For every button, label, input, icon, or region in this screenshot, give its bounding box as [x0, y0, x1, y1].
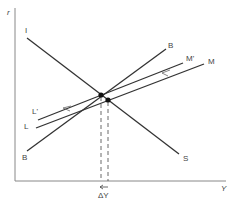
lm-prime-start-label: L' — [32, 107, 38, 116]
x-axis-label: Y — [221, 184, 227, 193]
lm-prime-curve — [38, 63, 183, 120]
lm-start-label: L — [24, 122, 29, 131]
y-axis-label: r — [7, 8, 10, 17]
lm-curve — [36, 64, 204, 128]
equilibrium-point-old — [105, 97, 110, 102]
delta-y-label: ΔY — [98, 191, 109, 200]
equilibrium-point-new — [98, 92, 103, 97]
is-end-label: S — [183, 154, 188, 163]
lm-end-label: M — [208, 57, 215, 66]
bp-curve — [27, 49, 166, 151]
diagram-canvas: r Y I S B B L' M' L M ΔY — [0, 0, 237, 210]
bp-end-label: B — [168, 41, 173, 50]
is-start-label: I — [25, 26, 27, 35]
bp-start-label: B — [22, 153, 27, 162]
lm-prime-end-label: M' — [186, 54, 195, 63]
